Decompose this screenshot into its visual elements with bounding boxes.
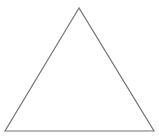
background — [0, 0, 159, 140]
diagram-canvas — [0, 0, 159, 140]
